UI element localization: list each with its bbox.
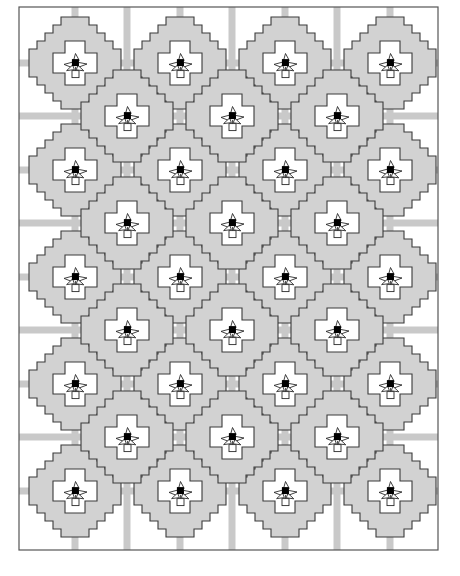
motif-stem-box [387, 285, 394, 292]
quilt-diagram-page [0, 0, 460, 576]
motif-stem-box [387, 392, 394, 399]
motif-center-square [387, 166, 394, 173]
motif-stem-box [282, 178, 289, 185]
motif-center-square [72, 380, 79, 387]
motif-center-square [282, 487, 289, 494]
motif-stem-box [177, 392, 184, 399]
motif-center-square [72, 273, 79, 280]
motif-stem-box [229, 231, 236, 238]
motif-stem-box [334, 124, 341, 131]
motif-stem-box [177, 499, 184, 506]
motif-stem-box [177, 178, 184, 185]
motif-center-square [387, 380, 394, 387]
motif-stem-box [124, 445, 131, 452]
motif-stem-box [72, 178, 79, 185]
motif-center-square [124, 326, 131, 333]
motif-stem-box [387, 178, 394, 185]
motif-center-square [229, 326, 236, 333]
motif-center-square [177, 273, 184, 280]
motif-stem-box [282, 285, 289, 292]
motif-stem-box [124, 338, 131, 345]
motif-center-square [229, 219, 236, 226]
motif-stem-box [387, 71, 394, 78]
motif-stem-box [334, 338, 341, 345]
motif-stem-box [72, 499, 79, 506]
motif-center-square [72, 166, 79, 173]
motif-center-square [387, 59, 394, 66]
motif-stem-box [334, 231, 341, 238]
motif-center-square [387, 487, 394, 494]
motif-center-square [72, 59, 79, 66]
motif-center-square [177, 59, 184, 66]
motif-stem-box [72, 71, 79, 78]
motif-stem-box [124, 124, 131, 131]
motif-stem-box [72, 392, 79, 399]
motif-center-square [334, 219, 341, 226]
motif-center-square [229, 112, 236, 119]
motif-center-square [177, 380, 184, 387]
motif-center-square [229, 433, 236, 440]
motif-stem-box [282, 71, 289, 78]
motif-center-square [282, 166, 289, 173]
motif-stem-box [387, 499, 394, 506]
quilt-pattern-svg [0, 0, 460, 576]
motif-center-square [334, 112, 341, 119]
motif-center-square [282, 380, 289, 387]
motif-stem-box [282, 499, 289, 506]
motif-stem-box [124, 231, 131, 238]
motif-stem-box [177, 285, 184, 292]
motif-center-square [124, 219, 131, 226]
motif-center-square [387, 273, 394, 280]
motif-center-square [282, 273, 289, 280]
motif-center-square [124, 112, 131, 119]
motif-stem-box [229, 445, 236, 452]
motif-stem-box [229, 124, 236, 131]
motif-center-square [72, 487, 79, 494]
motif-center-square [334, 326, 341, 333]
motif-center-square [124, 433, 131, 440]
motif-center-square [334, 433, 341, 440]
motif-stem-box [229, 338, 236, 345]
motif-center-square [177, 166, 184, 173]
motif-stem-box [334, 445, 341, 452]
motif-stem-box [177, 71, 184, 78]
motif-center-square [177, 487, 184, 494]
motif-stem-box [72, 285, 79, 292]
motif-center-square [282, 59, 289, 66]
motif-stem-box [282, 392, 289, 399]
